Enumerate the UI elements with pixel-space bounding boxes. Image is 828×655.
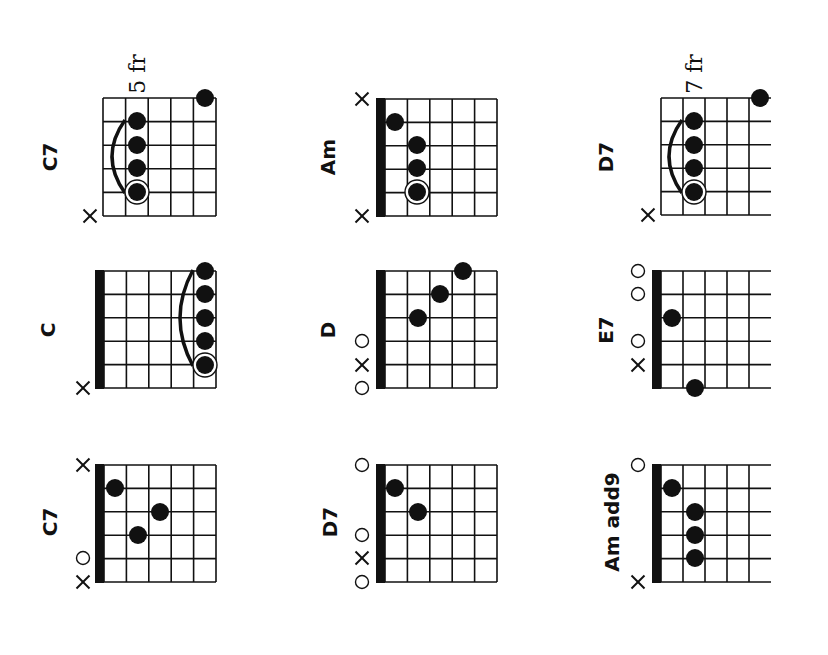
muted-string-x-icon: [356, 210, 369, 223]
finger-dot-icon: [751, 89, 769, 107]
chord-diagram-r1c1: [84, 89, 217, 223]
chord-diagram-r3c2: [356, 459, 498, 589]
fretboard-grid: [103, 98, 216, 216]
muted-string-x-icon: [356, 93, 369, 106]
chord-diagram-r2c3: [632, 265, 772, 398]
finger-dot-icon: [686, 503, 704, 521]
chord-name-label: Am add9: [600, 472, 624, 571]
fretboard-grid: [661, 271, 771, 388]
chord-chart: C75 frAmD77 frCDE7C7D7Am add9: [0, 0, 828, 655]
nut-bar: [95, 270, 104, 389]
finger-dot-icon: [386, 479, 404, 497]
chord-name-label: C7: [38, 143, 62, 172]
chord-name-label: E7: [594, 316, 618, 344]
open-string-o-icon: [77, 552, 90, 565]
root-finger-dot-icon: [128, 183, 146, 201]
finger-dot-icon: [128, 136, 146, 154]
finger-dot-icon: [196, 89, 214, 107]
open-string-o-icon: [632, 265, 645, 278]
nut-bar: [376, 270, 385, 389]
muted-string-x-icon: [77, 576, 90, 589]
finger-dot-icon: [128, 159, 146, 177]
finger-dot-icon: [663, 479, 681, 497]
finger-dot-icon: [686, 379, 704, 397]
chord-diagram-r2c1: [77, 262, 218, 395]
nut-bar: [652, 464, 661, 583]
barre-arc: [669, 120, 682, 193]
chord-name-label: D7: [594, 142, 618, 173]
root-finger-dot-icon: [196, 356, 214, 374]
barre-arc: [112, 120, 125, 193]
chord-diagram-r1c2: [356, 93, 498, 223]
finger-dot-icon: [196, 309, 214, 327]
fretboard-grid: [661, 98, 771, 215]
nut-bar: [376, 464, 385, 583]
finger-dot-icon: [106, 479, 124, 497]
finger-dot-icon: [431, 285, 449, 303]
root-finger-dot-icon: [685, 183, 703, 201]
open-string-o-icon: [356, 335, 369, 348]
fret-position-label: 7 fr: [682, 54, 707, 94]
chord-diagram-r3c3: [632, 459, 772, 589]
chord-name-label: C: [36, 323, 60, 338]
finger-dot-icon: [686, 526, 704, 544]
root-finger-dot-icon: [408, 183, 426, 201]
nut-bar: [652, 270, 661, 389]
muted-string-x-icon: [84, 210, 97, 223]
chord-name-label: C7: [38, 508, 62, 537]
fret-position-label: 5 fr: [125, 54, 150, 94]
chord-diagram-r1c3: [642, 89, 772, 222]
finger-dot-icon: [129, 526, 147, 544]
finger-dot-icon: [408, 159, 426, 177]
finger-dot-icon: [151, 503, 169, 521]
finger-dot-icon: [128, 112, 146, 130]
muted-string-x-icon: [642, 209, 655, 222]
finger-dot-icon: [685, 159, 703, 177]
open-string-o-icon: [356, 459, 369, 472]
muted-string-x-icon: [77, 382, 90, 395]
finger-dot-icon: [196, 285, 214, 303]
muted-string-x-icon: [632, 576, 645, 589]
finger-dot-icon: [454, 262, 472, 280]
finger-dot-icon: [663, 309, 681, 327]
open-string-o-icon: [632, 288, 645, 301]
open-string-o-icon: [632, 459, 645, 472]
open-string-o-icon: [356, 382, 369, 395]
chord-diagram-r2c2: [356, 262, 498, 395]
chord-name-label: Am: [316, 139, 340, 175]
chord-diagram-r3c1: [77, 459, 217, 589]
finger-dot-icon: [196, 262, 214, 280]
open-string-o-icon: [632, 335, 645, 348]
chord-name-label: D7: [318, 507, 342, 538]
finger-dot-icon: [685, 136, 703, 154]
chord-diagrams-canvas: [0, 0, 828, 655]
open-string-o-icon: [356, 576, 369, 589]
open-string-o-icon: [356, 529, 369, 542]
finger-dot-icon: [685, 112, 703, 130]
muted-string-x-icon: [356, 552, 369, 565]
finger-dot-icon: [409, 309, 427, 327]
muted-string-x-icon: [632, 359, 645, 372]
chord-name-label: D: [316, 322, 340, 339]
nut-bar: [376, 98, 385, 217]
finger-dot-icon: [386, 113, 404, 131]
finger-dot-icon: [409, 503, 427, 521]
finger-dot-icon: [686, 549, 704, 567]
nut-bar: [95, 464, 104, 583]
muted-string-x-icon: [77, 459, 90, 472]
finger-dot-icon: [196, 332, 214, 350]
finger-dot-icon: [408, 136, 426, 154]
muted-string-x-icon: [356, 359, 369, 372]
